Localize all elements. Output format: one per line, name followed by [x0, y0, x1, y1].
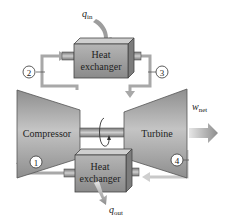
turbine-label: Turbine [141, 128, 173, 139]
svg-text:1: 1 [34, 158, 39, 168]
svg-text:3: 3 [160, 68, 165, 78]
heat-exchanger-top: Heat exchanger [62, 38, 141, 78]
heat-exchanger-bottom: Heat exchanger [64, 149, 139, 192]
pipe-2 [42, 56, 77, 90]
w-net-arrow-icon [189, 123, 218, 143]
w-net-label: wnet [192, 101, 207, 114]
arrow-into-bottom-hx-icon [142, 172, 150, 182]
q-out-label: qout [109, 204, 123, 217]
q-in-label: qin [82, 8, 93, 21]
hx-bottom-label-line1: Heat [91, 161, 110, 172]
shaft [80, 128, 124, 137]
compressor: Compressor [17, 90, 80, 178]
state-1-marker: 1 [30, 156, 42, 168]
arrow-into-turbine-icon [125, 91, 135, 98]
compressor-label: Compressor [23, 128, 72, 139]
brayton-cycle-diagram: Heat exchanger qin 2 3 Compressor Turbin… [0, 0, 228, 223]
hx-top-pipe-left [62, 52, 74, 60]
hx-top-label-line1: Heat [92, 49, 111, 60]
hx-bottom-label-line2: exchanger [79, 173, 121, 184]
hx-top-label-line2: exchanger [80, 61, 122, 72]
svg-text:4: 4 [175, 156, 180, 166]
svg-text:2: 2 [27, 68, 32, 78]
hx-bottom-pipe-left [64, 169, 76, 177]
